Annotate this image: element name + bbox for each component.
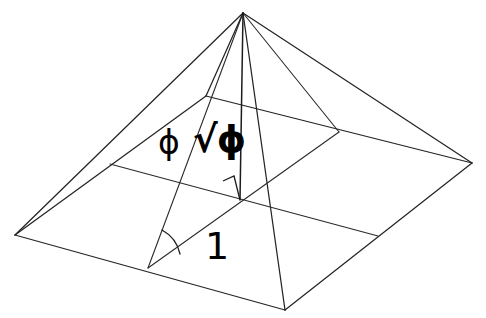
label-half-base: 1 [205, 227, 229, 265]
pyramid-figure: · · · · · · · · · · · · · · · · · · · · … [0, 0, 486, 318]
label-sqrt-phi: √ϕ [193, 121, 245, 158]
base-edge-front-right [285, 163, 472, 310]
label-phi: ϕ [158, 126, 180, 159]
lateral-edge-back [206, 13, 243, 96]
base-edge-front-left [15, 235, 285, 310]
lateral-edge-right [243, 13, 472, 163]
base-angle-arc [162, 230, 180, 254]
central-axis-height [240, 13, 243, 200]
base-edge-back-left [15, 96, 206, 235]
base-edge-back-right [206, 96, 472, 163]
